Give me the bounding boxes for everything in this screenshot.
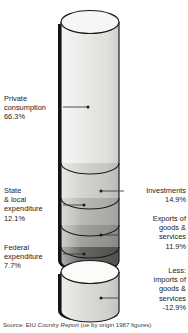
label-exports-goods-services: Exports of goods & services 11.9% <box>120 214 186 251</box>
source-publication: Country Report <box>38 321 79 328</box>
source-prefix: Source: EIU <box>3 321 36 328</box>
label-federal-expenditure: Federal expenditure 7.7% <box>4 243 62 271</box>
imports-cylinder-top-cap <box>61 261 119 284</box>
label-state-local-expenditure: State & local expenditure 12.1% <box>4 186 62 223</box>
stacked-cylinder-chart: Private consumption 66.3% State & local … <box>0 0 188 333</box>
cylinder-top-cap <box>61 11 119 34</box>
source-note: Source: EIU Country Report (ue by origin… <box>3 321 188 329</box>
label-less-imports-goods-services: Less: imports of goods & services -12.9% <box>120 266 186 312</box>
source-suffix: (ue by origin 1987 figures) <box>81 321 152 328</box>
label-investments: Investments 14.9% <box>126 186 186 204</box>
label-private-consumption: Private consumption 66.3% <box>4 94 62 122</box>
